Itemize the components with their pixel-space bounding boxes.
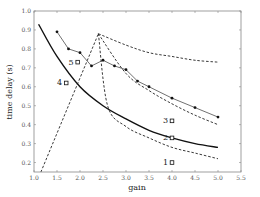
y-tick-label: 0.8 [21, 45, 31, 52]
data-point-marker [136, 80, 139, 83]
annotation-square-marker [170, 119, 174, 123]
x-axis-label: gain [128, 183, 146, 192]
data-point-marker [56, 30, 59, 33]
plot-area: 12345 [39, 24, 220, 172]
x-tick-label: 2.5 [98, 174, 108, 181]
annotation-square-marker [170, 161, 174, 165]
annotation-square-marker [76, 60, 80, 64]
annotation-label: 5 [69, 58, 74, 67]
annotation-label: 4 [57, 78, 62, 87]
series-dashed-line [98, 34, 218, 125]
x-tick-label: 2.0 [75, 174, 85, 181]
chart: 12345 1.01.52.02.53.03.54.04.55.05.5 0.2… [0, 0, 260, 197]
data-point-marker [194, 106, 197, 109]
data-point-marker [217, 116, 220, 119]
annotation-square-marker [170, 136, 174, 140]
x-tick-label: 1.0 [29, 174, 39, 181]
x-tick-label: 5.0 [213, 174, 223, 181]
y-tick-label: 0.6 [21, 83, 31, 90]
y-tick-label: 0.4 [21, 121, 31, 128]
annotation-square-marker [64, 81, 68, 85]
data-point-marker [90, 65, 93, 68]
series-dashed-line [98, 34, 218, 62]
y-tick-label: 0.7 [21, 64, 31, 71]
y-tick-label: 0.3 [21, 140, 31, 147]
y-axis-ticks: 0.20.30.40.50.60.70.80.91.0 [21, 7, 241, 166]
y-tick-label: 0.2 [21, 159, 31, 166]
x-tick-label: 4.0 [167, 174, 177, 181]
x-tick-label: 1.5 [52, 174, 62, 181]
data-point-marker [148, 85, 151, 88]
data-point-marker [67, 47, 70, 50]
x-tick-label: 4.5 [190, 174, 200, 181]
annotation-label: 2 [163, 133, 168, 142]
x-tick-label: 3.0 [121, 174, 131, 181]
x-tick-label: 5.5 [236, 174, 246, 181]
data-point-marker [113, 65, 116, 68]
data-point-marker [125, 68, 128, 71]
annotation-label: 3 [163, 116, 168, 125]
data-point-marker [171, 97, 174, 100]
axes-frame [34, 11, 241, 172]
annotation-label: 1 [163, 158, 168, 167]
data-point-marker [102, 59, 105, 62]
data-point-marker [79, 51, 82, 54]
series-dashed-line [41, 34, 99, 172]
y-axis-label: time delay (s) [5, 64, 14, 119]
x-axis-ticks: 1.01.52.02.53.03.54.04.55.05.5 [29, 11, 246, 181]
series-solid-curve [39, 24, 218, 147]
y-tick-label: 0.5 [21, 102, 31, 109]
y-tick-label: 0.9 [21, 26, 31, 33]
y-tick-label: 1.0 [21, 7, 31, 14]
x-tick-label: 3.5 [144, 174, 154, 181]
